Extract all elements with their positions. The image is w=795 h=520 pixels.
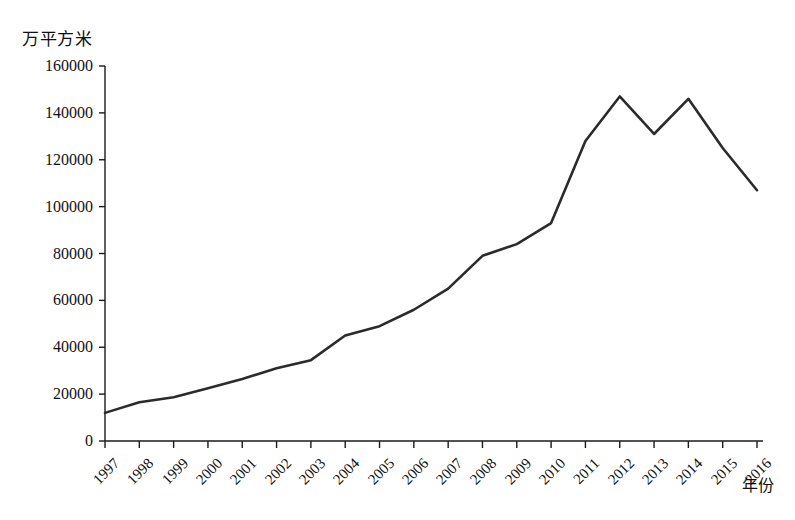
y-tick-label: 140000 [0,104,93,122]
line-chart-plot [0,0,795,520]
chart-figure: 万平方米 年份 02000040000600008000010000012000… [0,0,795,520]
y-tick-label: 40000 [0,338,93,356]
y-tick-label: 80000 [0,245,93,263]
y-tick-label: 60000 [0,291,93,309]
y-tick-label: 120000 [0,151,93,169]
y-tick-label: 20000 [0,385,93,403]
y-tick-label: 0 [0,432,93,450]
y-tick-label: 100000 [0,198,93,216]
data-series-line [105,96,757,412]
y-tick-label: 160000 [0,57,93,75]
